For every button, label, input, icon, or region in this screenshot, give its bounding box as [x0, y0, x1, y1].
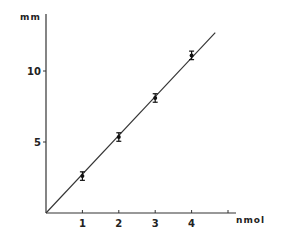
point-marker: [153, 96, 157, 100]
data-point: [189, 51, 194, 60]
point-marker: [80, 174, 84, 178]
y-axis-label: mm: [20, 12, 41, 22]
y-tick-label: 10: [27, 66, 41, 77]
point-marker: [117, 135, 121, 139]
axis-labels: mm nmol: [20, 12, 265, 225]
x-tick-label: 3: [152, 218, 159, 229]
chart: 1234510 mm nmol: [0, 0, 285, 235]
x-tick-label: 4: [188, 218, 195, 229]
x-axis-label: nmol: [236, 215, 265, 225]
point-marker: [190, 53, 194, 57]
y-tick-label: 5: [34, 137, 41, 148]
x-tick-label: 1: [79, 218, 86, 229]
x-tick-label: 2: [115, 218, 122, 229]
